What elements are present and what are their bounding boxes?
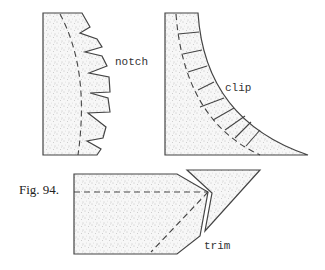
notch-panel (43, 13, 110, 155)
trim-fabric-shape (74, 174, 208, 254)
trim-label: trim (204, 240, 231, 252)
notch-fabric-shape (43, 13, 110, 155)
notch-label: notch (115, 56, 148, 68)
figure-caption: Fig. 94. (19, 182, 59, 197)
clip-label: clip (225, 82, 251, 94)
trim-panel (74, 170, 260, 254)
figure-94-diagram: notch clip Fig. 94. trim (0, 0, 325, 270)
